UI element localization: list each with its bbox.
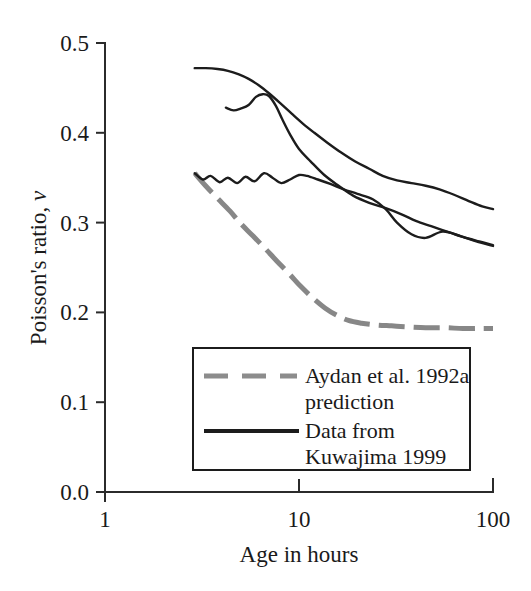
y-axis-title-group: Poisson's ratio, ν [26,190,51,345]
legend-label-prediction-line1: Aydan et al. 1992a [305,363,469,388]
y-tick-label: 0.2 [60,300,89,325]
x-axis-title: Age in hours [240,542,359,567]
poissons-ratio-vs-age-chart: 0.00.10.20.30.40.5 110100 Age in hours P… [0,0,531,591]
legend-label-prediction-line2: prediction [305,389,394,414]
x-tick-label: 1 [99,507,111,532]
y-tick-label: 0.0 [60,480,89,505]
y-tick-label: 0.4 [60,121,89,146]
chart-legend: Aydan et al. 1992a prediction Data from … [193,348,470,470]
x-tick-label: 100 [476,507,511,532]
legend-label-data-line1: Data from [305,418,395,443]
y-axis-title-symbol: ν [26,190,51,201]
chart-figure: 0.00.10.20.30.40.5 110100 Age in hours P… [0,0,531,591]
y-tick-label: 0.3 [60,211,89,236]
x-tick-label: 10 [288,507,311,532]
legend-label-data-line2: Kuwajima 1999 [305,444,446,469]
y-axis-title-text: Poisson's ratio, [26,207,51,345]
y-tick-label: 0.5 [60,31,89,56]
y-tick-label: 0.1 [60,390,89,415]
y-axis-title: Poisson's ratio, ν [26,190,51,345]
